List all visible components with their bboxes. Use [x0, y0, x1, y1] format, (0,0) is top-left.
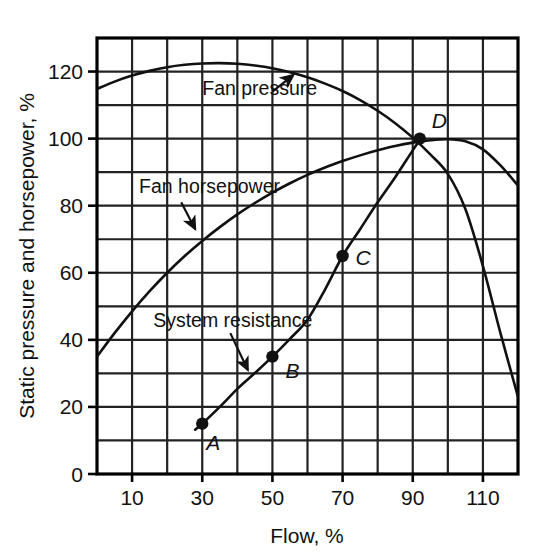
operating-point-marker-d — [414, 132, 426, 144]
operating-point-label-b: B — [285, 359, 299, 382]
y-axis-tick-label: 100 — [48, 127, 83, 150]
x-axis-tick-label: 30 — [191, 486, 214, 509]
operating-point-label-d: D — [432, 109, 447, 132]
y-axis-tick-label: 20 — [60, 395, 83, 418]
y-axis-tick-label: 0 — [71, 463, 83, 486]
x-axis-tick-label: 50 — [261, 486, 284, 509]
x-axis-tick-label: 10 — [120, 486, 143, 509]
y-axis-title: Static pressure and horsepower, % — [15, 93, 38, 419]
operating-point-marker-b — [266, 350, 278, 362]
y-axis-tick-label: 80 — [60, 194, 83, 217]
operating-point-marker-c — [336, 250, 348, 262]
y-axis-tick-label: 40 — [60, 328, 83, 351]
series-label-system-resistance: System resistance — [153, 309, 312, 331]
x-axis-tick-label: 90 — [401, 486, 424, 509]
fan-performance-chart-figure: 1030507090110 020406080100120 Flow, % St… — [0, 0, 544, 555]
x-axis-title: Flow, % — [270, 524, 344, 547]
y-axis-tick-label: 60 — [60, 261, 83, 284]
y-axis-tick-label: 120 — [48, 60, 83, 83]
operating-point-label-a: A — [204, 431, 220, 454]
series-label-fan-pressure: Fan pressure — [202, 77, 317, 99]
operating-point-marker-a — [196, 417, 208, 429]
x-axis-tick-label: 70 — [331, 486, 354, 509]
series-label-fan-horsepower: Fan horsepower — [139, 175, 280, 197]
operating-point-label-c: C — [356, 246, 372, 269]
x-axis-tick-label: 110 — [466, 486, 499, 509]
chart-canvas: 1030507090110 020406080100120 Flow, % St… — [0, 0, 544, 555]
